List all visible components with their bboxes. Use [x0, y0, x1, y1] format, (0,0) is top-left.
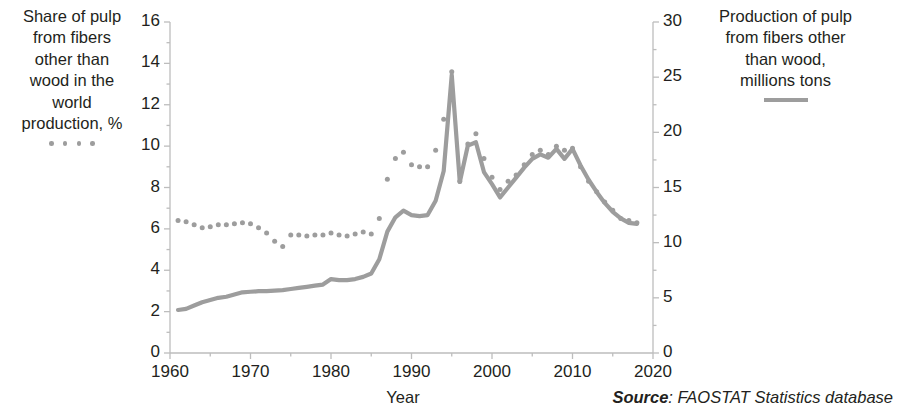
y-axis-right-tick-label: 0 [663, 342, 703, 362]
x-axis-tick-label: 1960 [140, 362, 200, 382]
x-axis-tick-label: 2000 [462, 362, 522, 382]
y-axis-left-tick-label: 12 [104, 94, 160, 114]
y-axis-left-tick-label: 16 [104, 11, 160, 31]
y-axis-right-tick-label: 20 [663, 121, 703, 141]
x-axis-tick-label: 1990 [382, 362, 442, 382]
source-prefix: Source [612, 388, 668, 406]
line-series-production [178, 75, 637, 310]
y-axis-left-tick-label: 10 [104, 135, 160, 155]
y-axis-left-tick-label: 6 [104, 218, 160, 238]
y-axis-right-tick-label: 25 [663, 66, 703, 86]
y-axis-right-tick-label: 5 [663, 287, 703, 307]
x-axis-title: Year [358, 388, 448, 407]
y-axis-right-tick-label: 10 [663, 232, 703, 252]
y-axis-left-tick-label: 14 [104, 52, 160, 72]
source-note: Source: FAOSTAT Statistics database [612, 388, 893, 407]
y-axis-left-tick-label: 4 [104, 259, 160, 279]
y-axis-left-tick-label: 8 [104, 177, 160, 197]
x-axis-tick-label: 1980 [301, 362, 361, 382]
x-axis-tick-label: 2020 [623, 362, 683, 382]
axes [164, 22, 659, 359]
chart-figure: Share of pulp from fibers other than woo… [0, 0, 897, 416]
y-axis-left-tick-label: 0 [104, 342, 160, 362]
y-axis-right-tick-label: 15 [663, 177, 703, 197]
y-axis-right-tick-label: 30 [663, 11, 703, 31]
data-series [176, 69, 640, 310]
y-axis-left-tick-label: 2 [104, 301, 160, 321]
source-text: : FAOSTAT Statistics database [668, 388, 893, 406]
dotted-series-share [176, 69, 640, 249]
x-axis-tick-label: 2010 [543, 362, 603, 382]
x-axis-tick-label: 1970 [221, 362, 281, 382]
